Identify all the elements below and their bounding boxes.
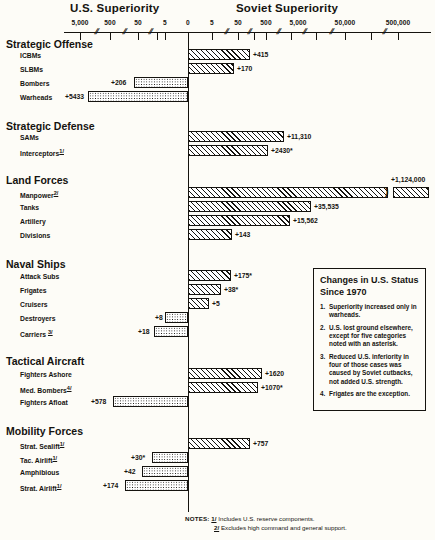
bar-value-warheads: +5433 [65, 93, 84, 100]
axis-tick [157, 32, 158, 40]
row-label-interceptors-text: Interceptors [20, 150, 59, 157]
changes-box-item: 1. Superiority increased only in warhead… [320, 303, 419, 319]
axis-tick-label-right-500000: 500,000 [386, 19, 411, 26]
axis-tick-label-right-500: 500 [260, 19, 271, 26]
bar-carriers [154, 326, 188, 337]
row-label-med-bombers: Med. Bombers4/ [20, 385, 72, 394]
bar-value-strat-airlift: +174 [103, 482, 118, 489]
footnote-marker-1d: 1/ [57, 483, 62, 489]
footnote-marker-1: 1/ [59, 148, 64, 154]
bar-break-indicator-manpower: ) [385, 186, 389, 197]
changes-box-item-text: Reduced U.S. inferiority in four of thos… [329, 353, 412, 385]
changes-box-item: 3. Reduced U.S. inferiority in four of t… [320, 353, 419, 386]
row-label-med-bombers-text: Med. Bombers [20, 387, 67, 394]
axis-tick-label-right-5000: 5,000 [289, 19, 306, 26]
row-label-strat-sealift-text: Strat. Sealift [20, 443, 60, 450]
bar-fighters-ashore [188, 368, 262, 379]
group-title-mobility-forces: Mobility Forces [6, 425, 83, 437]
footnote-marker-1b: 1/ [60, 441, 65, 447]
axis-tick-label-left-50: 50 [134, 19, 142, 26]
bar-value-sams: +11,310 [287, 133, 311, 140]
bar-value-frigates: +38* [224, 286, 238, 293]
bar-value-tac-airlift: +30* [131, 454, 145, 461]
axis-tick [110, 32, 111, 40]
row-label-amphibious: Amphibious [20, 469, 59, 476]
bar-fighters-afloat [113, 396, 188, 407]
bar-slbms [188, 63, 234, 74]
row-label-tanks: Tanks [20, 204, 39, 211]
bar-strat-airlift [125, 480, 188, 491]
row-label-manpower: Manpower2/ [20, 190, 58, 199]
bar-tac-airlift [152, 452, 188, 463]
bar-value-artillery: +15,562 [293, 217, 318, 224]
axis-tick [316, 32, 317, 40]
bar-warheads [88, 91, 188, 102]
axis-tick [165, 32, 166, 40]
row-label-carriers-text: Carriers [20, 331, 46, 338]
group-title-tactical-aircraft: Tactical Aircraft [6, 355, 84, 367]
axis-tick-label-left-500: 500 [104, 19, 115, 26]
bar-value-tanks: +35,535 [314, 203, 339, 210]
notes-marker-1: 1/ [211, 515, 216, 522]
bar-value-attack-subs: +175* [234, 272, 252, 279]
notes-text-1: Includes U.S. reserve components. [218, 515, 314, 522]
row-label-frigates: Frigates [20, 287, 46, 294]
axis-tick [138, 32, 139, 40]
bar-artillery [188, 215, 290, 226]
soviet-superiority-title: Soviet Superiority [236, 2, 338, 14]
bar-value-strat-sealift: +757 [253, 440, 268, 447]
bar-value-fighters-ashore: +1620 [265, 370, 284, 377]
row-label-fighters-ashore: Fighters Ashore [20, 371, 72, 378]
bar-value-manpower: +1,124,000 [391, 176, 425, 183]
row-label-slbms: SLBMs [20, 66, 43, 73]
changes-box-item-number: 3. [320, 353, 325, 361]
bar-frigates [188, 284, 221, 295]
bar-cruisers [188, 298, 209, 309]
row-label-strat-airlift-text: Strat. Airlift [20, 485, 57, 492]
bar-attack-subs [188, 270, 231, 281]
footnote-marker-4: 4/ [67, 385, 72, 391]
bar-med-bombers [188, 382, 258, 393]
row-label-interceptors: Interceptors1/ [20, 148, 64, 157]
axis-tick [238, 32, 239, 40]
changes-box-item-text: Superiority increased only in warheads. [329, 303, 417, 318]
axis-tick [254, 32, 255, 40]
group-title-strategic-defense: Strategic Defense [6, 120, 95, 132]
notes-text-2: Excludes high command and general suppor… [221, 524, 347, 531]
group-title-strategic-offense: Strategic Offense [6, 38, 93, 50]
row-label-fighters-afloat: Fighters Afloat [20, 399, 68, 406]
axis-tick-label-left-5000: 5,000 [71, 19, 88, 26]
axis-tick [345, 32, 346, 40]
bar-interceptors [188, 145, 268, 156]
bar-sams [188, 131, 284, 142]
changes-box-title-line2: Since 1970 [320, 287, 419, 299]
bar-manpower-continued [393, 187, 429, 198]
row-label-bombers: Bombers [20, 80, 49, 87]
row-label-divisions: Divisions [20, 232, 50, 239]
axis-tick-label-right-50: 50 [234, 19, 242, 26]
bar-value-icbms: +415 [253, 51, 268, 58]
changes-box-item: 4. Frigates are the exception. [320, 390, 419, 398]
axis-tick [398, 32, 399, 40]
notes-marker-2: 2/ [214, 524, 219, 531]
row-label-tac-airlift-text: Tac. Airlift [20, 457, 52, 464]
changes-box-item: 2. U.S. lost ground elsewhere, except fo… [320, 324, 419, 349]
footnote-marker-2: 2/ [54, 190, 59, 196]
row-label-tac-airlift: Tac. Airlift1/ [20, 455, 57, 464]
bar-value-cruisers: +5 [212, 300, 220, 307]
us-superiority-title: U.S. Superiority [70, 2, 159, 14]
axis-tick-label-zero: 0 [186, 19, 190, 26]
axis-tick [212, 32, 213, 40]
bar-amphibious [142, 466, 188, 477]
axis-tick [291, 32, 292, 40]
axis-tick-label-right-5: 5 [210, 19, 214, 26]
axis-tick-label-right-50000: 50,000 [335, 19, 356, 26]
bar-value-med-bombers: +1070* [261, 384, 283, 391]
axis-tick [266, 32, 267, 40]
footnote-marker-3: 3/ [48, 329, 53, 335]
row-label-warheads: Warheads [20, 94, 52, 101]
bar-value-destroyers: +8 [155, 314, 163, 321]
changes-box-title-line1: Changes in U.S. Status [320, 275, 419, 287]
notes-row: 2/ Excludes high command and general sup… [185, 524, 347, 533]
row-label-strat-airlift: Strat. Airlift1/ [20, 483, 61, 492]
